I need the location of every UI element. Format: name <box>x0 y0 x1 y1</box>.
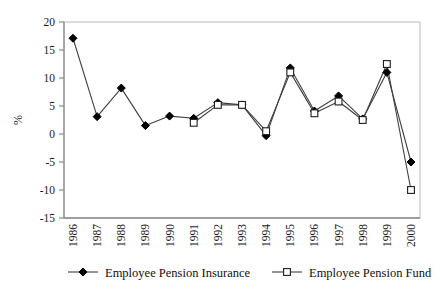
x-tick-label: 1990 <box>164 224 176 247</box>
x-tick-label: 1993 <box>236 224 248 247</box>
data-point-marker-square <box>287 69 294 76</box>
y-tick-label: -10 <box>40 184 56 196</box>
x-tick-label: 1999 <box>381 224 393 247</box>
legend-label: Employee Pension Insurance <box>105 266 251 280</box>
x-tick-label: 1996 <box>308 224 320 247</box>
data-point-marker-square <box>190 119 197 126</box>
chart-legend: Employee Pension InsuranceEmployee Pensi… <box>68 266 432 280</box>
y-tick-label: 20 <box>44 16 56 28</box>
y-tick-label: -15 <box>40 212 56 224</box>
data-point-marker-square <box>408 187 415 194</box>
x-tick-label: 1992 <box>212 224 224 247</box>
x-tick-label: 1987 <box>91 224 103 247</box>
line-chart: 20151050-5-10-15 19861987198819891990199… <box>0 0 440 295</box>
x-tick-label: 1986 <box>67 224 79 247</box>
x-tick-label: 1997 <box>333 224 345 247</box>
x-axis-tick-labels: 1986198719881989199019911992199319941995… <box>67 224 417 247</box>
data-point-marker-square <box>359 117 366 124</box>
x-tick-label: 1994 <box>260 224 272 247</box>
y-axis-title: % <box>11 115 25 125</box>
x-tick-label: 1995 <box>284 224 296 247</box>
data-point-marker-square <box>311 110 318 117</box>
y-tick-label: 0 <box>49 128 55 140</box>
x-tick-label: 1989 <box>139 224 151 247</box>
data-point-marker-square <box>284 269 291 276</box>
data-point-marker-square <box>214 101 221 108</box>
y-tick-label: 10 <box>44 72 56 84</box>
y-tick-label: 5 <box>49 100 55 112</box>
chart-container: 20151050-5-10-15 19861987198819891990199… <box>0 0 440 295</box>
y-tick-label: -5 <box>45 156 55 168</box>
x-tick-label: 1998 <box>357 224 369 247</box>
legend-label: Employee Pension Fund <box>309 266 432 280</box>
x-tick-label: 2000 <box>405 224 417 247</box>
y-tick-label: 15 <box>44 44 56 56</box>
data-point-marker-square <box>335 98 342 105</box>
data-point-marker-square <box>383 61 390 68</box>
data-point-marker-square <box>239 101 246 108</box>
data-point-marker-square <box>263 128 270 135</box>
chart-background <box>0 0 440 295</box>
x-tick-label: 1988 <box>115 224 127 247</box>
x-tick-label: 1991 <box>188 224 200 247</box>
